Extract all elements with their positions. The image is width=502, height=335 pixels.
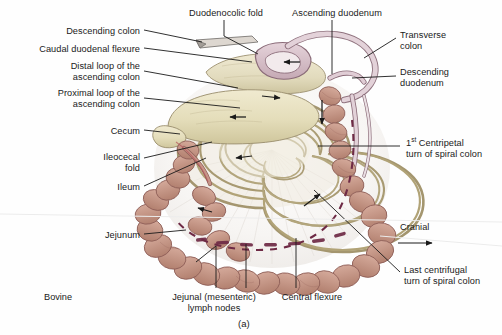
label-proximal-loop-ascending-colon: Proximal loop of the ascending colon [12, 88, 140, 110]
label-descending-duodenum: Descending duodenum [400, 67, 496, 89]
panel-letter: (a) [238, 318, 250, 329]
label-ileum: Ileum [88, 182, 140, 193]
label-jejunal-lymph-nodes: Jejunal (mesenteric) lymph nodes [160, 292, 268, 314]
label-ascending-duodenum: Ascending duodenum [282, 8, 392, 19]
label-cecum: Cecum [88, 126, 140, 137]
anatomy-figure: Descending colon Caudal duodenal flexure… [0, 0, 502, 335]
leader-caudal-duodenal-flexure [144, 48, 252, 62]
label-central-flexure: Central flexure [272, 292, 352, 303]
ordinal-rest: Centripetal turn of spiral colon [406, 138, 482, 159]
label-descending-colon: Descending colon [8, 26, 140, 37]
label-duodenocolic-fold: Duodenocolic fold [178, 8, 274, 19]
label-distal-loop-ascending-colon: Distal loop of the ascending colon [18, 61, 140, 83]
label-last-centrifugal-turn: Last centrifugal turn of spiral colon [404, 265, 502, 287]
label-jejunum: Jejunum [78, 230, 140, 241]
label-transverse-colon: Transverse colon [400, 30, 496, 52]
label-cranial: Cranial [400, 222, 460, 233]
label-ileocecal-fold: Ileocecal fold [76, 152, 140, 174]
species-caption: Bovine [44, 292, 72, 302]
leader-descending-colon [144, 30, 202, 42]
label-first-centripetal-turn: 1st Centripetal turn of spiral colon [406, 138, 502, 160]
label-caudal-duodenal-flexure: Caudal duodenal flexure [2, 44, 140, 55]
